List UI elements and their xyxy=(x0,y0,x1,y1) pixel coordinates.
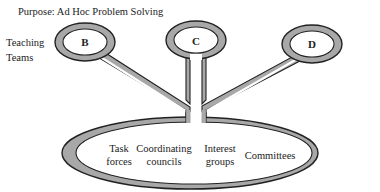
ring-b: B xyxy=(55,23,115,61)
group-coordinating-councils: Coordinating councils xyxy=(130,142,198,168)
node-b-label: B xyxy=(81,36,89,48)
ring-d: D xyxy=(282,25,342,63)
group-interest-groups: Interest groups xyxy=(198,142,242,168)
group-committees: Committees xyxy=(240,149,300,162)
connector-stems xyxy=(96,52,300,117)
stem-c-right xyxy=(202,55,206,104)
stem-channels xyxy=(99,56,297,113)
node-d-label: D xyxy=(308,38,316,50)
ring-c: C xyxy=(166,21,226,60)
stem-c-left xyxy=(186,55,190,104)
node-c-label: C xyxy=(192,35,200,47)
